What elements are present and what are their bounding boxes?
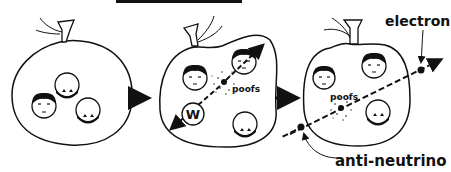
panel-3: poofs electron anti-neutrino	[282, 13, 450, 170]
w-label: W	[186, 107, 200, 122]
anti-neutrino-dot	[298, 124, 305, 131]
neutron-face	[232, 49, 256, 74]
electron-pointer	[421, 30, 423, 62]
title-underline	[116, 0, 242, 3]
poof-label: poofs	[330, 92, 358, 102]
electron-dot	[418, 67, 425, 74]
proton-face	[76, 98, 100, 124]
w-boson: W	[182, 103, 204, 125]
bag-knot	[58, 20, 74, 42]
poof-label: poofs	[232, 84, 260, 94]
neutron-face	[362, 53, 386, 78]
bag-knot	[184, 24, 198, 46]
neutron-face	[32, 93, 56, 118]
anti-neutrino-label: anti-neutrino	[335, 152, 447, 170]
neutron-face	[313, 66, 335, 89]
neutron-face	[183, 65, 207, 90]
panel-1	[12, 18, 132, 145]
proton-face	[233, 112, 257, 138]
beta-decay-diagram: poofs W	[0, 0, 451, 172]
proton-face	[366, 100, 390, 126]
electron-label: electron	[385, 13, 450, 29]
decay-path-tail	[282, 130, 296, 137]
panel-2: poofs W	[160, 16, 277, 147]
proton-face	[55, 73, 79, 99]
